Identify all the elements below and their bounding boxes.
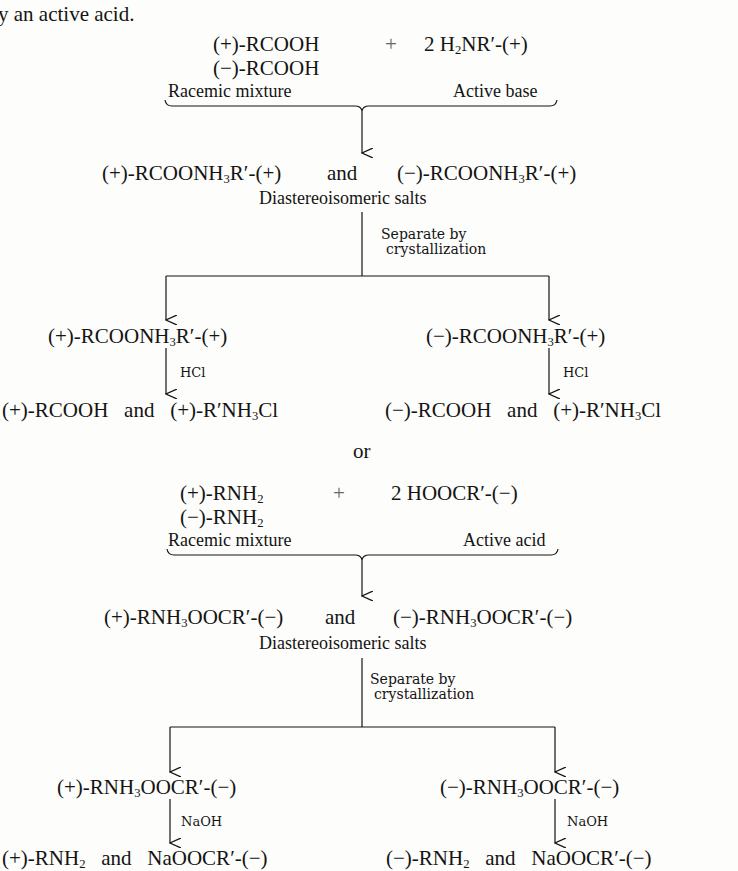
label-diastereoisomeric-salts: Diastereoisomeric salts — [259, 189, 426, 207]
active-acid-reagent: 2 HOOCR′-(−) — [391, 483, 518, 504]
brace-scheme2 — [167, 549, 558, 560]
reagent-naoh-left: NaOH — [181, 815, 222, 828]
racemic-amine-minus: (−)-RNH2 — [180, 507, 263, 528]
brace-scheme1 — [165, 100, 557, 111]
label-active-acid: Active acid — [463, 531, 545, 549]
separate-by-label: Separate by — [381, 227, 466, 242]
products-left-1: (+)-RCOOH and (+)-R′NH3Cl — [2, 400, 278, 421]
and-text: and — [327, 163, 357, 184]
racemic-acid-plus: (+)-RCOOH — [213, 34, 319, 55]
crystallization-label: crystallization — [386, 242, 486, 257]
plus-sign: + — [385, 34, 397, 55]
products-left-2: (+)-RNH2 and NaOOCR′-(−) — [2, 848, 268, 869]
reagent-hcl-left: HCl — [180, 366, 205, 379]
active-base-reagent: 2 H2NR′-(+) — [424, 34, 528, 55]
plus-sign-2: + — [333, 483, 345, 504]
label-racemic-mixture: Racemic mixture — [168, 82, 291, 100]
separate-by-label-2: Separate by — [370, 672, 455, 687]
branch-left-salt-2: (+)-RNH3OOCR′-(−) — [57, 777, 236, 798]
or-text: or — [353, 441, 371, 462]
label-racemic-mixture-2: Racemic mixture — [168, 531, 291, 549]
salt-plus-2: (+)-RNH3OOCR′-(−) — [104, 607, 283, 628]
branch-right-salt-1: (−)-RCOONH3R′-(+) — [426, 326, 605, 347]
crystallization-label-2: crystallization — [374, 687, 474, 702]
and-text-2: and — [325, 607, 355, 628]
branch-left-salt-1: (+)-RCOONH3R′-(+) — [48, 326, 227, 347]
branch-right-salt-2: (−)-RNH3OOCR′-(−) — [440, 777, 619, 798]
reagent-naoh-right: NaOH — [567, 815, 608, 828]
products-right-2: (−)-RNH2 and NaOOCR′-(−) — [386, 848, 652, 869]
racemic-amine-plus: (+)-RNH2 — [180, 483, 263, 504]
racemic-acid-minus: (−)-RCOOH — [213, 58, 319, 79]
products-right-1: (−)-RCOOH and (+)-R′NH3Cl — [385, 400, 661, 421]
label-diastereoisomeric-salts-2: Diastereoisomeric salts — [259, 634, 426, 652]
reagent-hcl-right: HCl — [563, 366, 588, 379]
salt-minus-2: (−)-RNH3OOCR′-(−) — [393, 607, 572, 628]
salt-minus-1: (−)-RCOONH3R′-(+) — [397, 163, 576, 184]
label-active-base: Active base — [453, 82, 537, 100]
intro-text: y an active acid. — [0, 4, 134, 25]
salt-plus-1: (+)-RCOONH3R′-(+) — [102, 163, 281, 184]
